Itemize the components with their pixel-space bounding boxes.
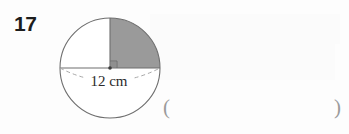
answer-close-paren: ) [334,97,341,118]
circle-diagram: 12 cm [52,10,170,128]
diameter-label: 12 cm [90,73,127,89]
centre-dot [108,66,112,70]
scan-artefact-middle [155,44,335,80]
answer-open-paren: ( [163,97,170,118]
circle-diagram-svg: 12 cm [52,10,170,128]
answer-blank-field[interactable] [172,97,332,119]
question-number: 17 [14,13,36,34]
scan-artefact-top [150,14,340,44]
worksheet-question-figure: 17 12 cm ( ) [0,0,349,134]
right-angle-mark-fill [111,62,116,67]
